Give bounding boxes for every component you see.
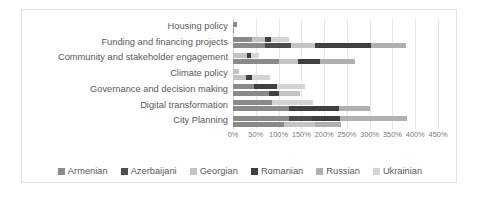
bar-segment[interactable]	[284, 122, 315, 127]
bar-segment[interactable]	[289, 116, 313, 121]
legend-item[interactable]: Ukrainian	[373, 166, 422, 176]
bar-segment[interactable]	[233, 59, 279, 64]
legend-label: Russian	[326, 166, 360, 176]
legend-item[interactable]: Romanian	[251, 166, 303, 176]
legend-item[interactable]: Azerbaijani	[121, 166, 177, 176]
legend-label: Armenian	[68, 166, 108, 176]
bar-segment[interactable]	[289, 106, 339, 111]
bar-row[interactable]	[233, 100, 313, 105]
plot-area	[233, 19, 438, 129]
bar-row[interactable]	[233, 53, 259, 58]
bar-segment[interactable]	[291, 43, 315, 48]
legend-item[interactable]: Russian	[316, 166, 360, 176]
gridline	[392, 19, 393, 129]
bar-segment[interactable]	[371, 43, 407, 48]
category-label: Digital transformation	[140, 98, 228, 114]
bar-segment[interactable]	[272, 100, 313, 105]
bar-row[interactable]	[233, 106, 370, 111]
bar-segment[interactable]	[252, 75, 270, 80]
category-axis-labels: Housing policyFunding and financing proj…	[22, 19, 232, 129]
legend-label: Georgian	[200, 166, 238, 176]
bar-segment[interactable]	[339, 106, 370, 111]
legend-swatch-icon	[121, 168, 128, 175]
bar-segment[interactable]	[233, 91, 269, 96]
bar-segment[interactable]	[252, 37, 265, 42]
legend-swatch-icon	[251, 168, 258, 175]
bar-row[interactable]	[233, 22, 237, 27]
value-axis-labels: 0%50%100%150%200%250%300%350%400%450%	[233, 130, 438, 144]
bar-segment[interactable]	[279, 91, 300, 96]
bar-segment[interactable]	[233, 75, 246, 80]
bar-row[interactable]	[233, 43, 406, 48]
bar-segment[interactable]	[233, 43, 265, 48]
category-label: Funding and financing projects	[101, 35, 228, 51]
bar-row[interactable]	[233, 84, 305, 89]
gridline	[415, 19, 416, 129]
bar-segment[interactable]	[320, 59, 354, 64]
x-tick-label: 400%	[406, 130, 425, 139]
x-tick-label: 200%	[315, 130, 334, 139]
bar-row[interactable]	[233, 116, 407, 121]
chart-legend: ArmenianAzerbaijaniGeorgianRomanianRussi…	[22, 160, 458, 182]
category-label: Governance and decision making	[90, 82, 228, 98]
bar-segment[interactable]	[233, 53, 247, 58]
bar-segment[interactable]	[312, 116, 339, 121]
bar-row[interactable]	[233, 59, 355, 64]
gridline	[370, 19, 371, 129]
legend-label: Romanian	[261, 166, 303, 176]
bar-row[interactable]	[233, 122, 341, 127]
legend-swatch-icon	[373, 168, 380, 175]
chart-container: Housing policyFunding and financing proj…	[21, 9, 457, 183]
legend-label: Ukrainian	[383, 166, 422, 176]
bar-segment[interactable]	[233, 37, 252, 42]
bar-row[interactable]	[233, 37, 289, 42]
bar-segment[interactable]	[277, 84, 305, 89]
bar-row[interactable]	[233, 28, 234, 33]
bar-segment[interactable]	[233, 84, 254, 89]
x-tick-label: 450%	[429, 130, 448, 139]
legend-item[interactable]: Georgian	[190, 166, 238, 176]
x-tick-label: 300%	[360, 130, 379, 139]
bar-segment[interactable]	[233, 28, 234, 33]
legend-swatch-icon	[316, 168, 323, 175]
bar-segment[interactable]	[233, 116, 289, 121]
bar-segment[interactable]	[315, 122, 341, 127]
x-tick-label: 100%	[269, 130, 288, 139]
x-tick-label: 150%	[292, 130, 311, 139]
legend-swatch-icon	[58, 168, 65, 175]
category-label: City Planning	[173, 113, 228, 129]
bar-segment[interactable]	[233, 69, 239, 74]
category-label: Housing policy	[168, 19, 228, 35]
bar-segment[interactable]	[233, 100, 272, 105]
bar-segment[interactable]	[315, 43, 371, 48]
bar-segment[interactable]	[233, 122, 284, 127]
gridline	[279, 19, 280, 129]
gridline	[324, 19, 325, 129]
bar-segment[interactable]	[340, 116, 407, 121]
gridline	[301, 19, 302, 129]
x-tick-label: 350%	[383, 130, 402, 139]
x-tick-label: 50%	[248, 130, 263, 139]
category-label: Community and stakeholder engagement	[58, 50, 228, 66]
category-label: Climate policy	[170, 66, 228, 82]
bar-row[interactable]	[233, 91, 300, 96]
bar-segment[interactable]	[269, 91, 278, 96]
bar-segment[interactable]	[271, 37, 288, 42]
x-tick-label: 250%	[337, 130, 356, 139]
bar-row[interactable]	[233, 69, 239, 74]
bar-segment[interactable]	[251, 53, 259, 58]
bar-segment[interactable]	[279, 59, 298, 64]
bar-segment[interactable]	[233, 22, 237, 27]
bar-row[interactable]	[233, 75, 270, 80]
gridline	[347, 19, 348, 129]
bar-segment[interactable]	[265, 43, 291, 48]
bar-segment[interactable]	[254, 84, 277, 89]
gridline	[438, 19, 439, 129]
legend-label: Azerbaijani	[131, 166, 177, 176]
bar-segment[interactable]	[298, 59, 321, 64]
legend-swatch-icon	[190, 168, 197, 175]
legend-item[interactable]: Armenian	[58, 166, 108, 176]
x-tick-label: 0%	[228, 130, 239, 139]
bar-segment[interactable]	[233, 106, 289, 111]
